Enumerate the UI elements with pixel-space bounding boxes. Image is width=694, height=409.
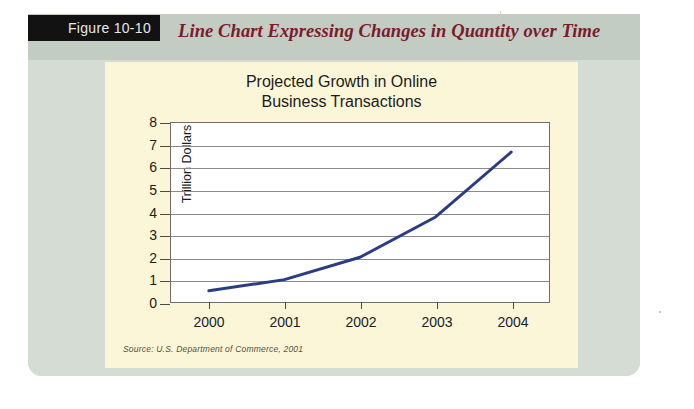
chart-title: Projected Growth in Online Business Tran… [105, 72, 578, 112]
y-axis-tick [160, 281, 170, 282]
series-polyline [209, 152, 511, 291]
y-axis-tick-label: 4 [135, 206, 157, 220]
x-axis-tick-label: 2002 [331, 314, 391, 330]
chart-title-line-1: Projected Growth in Online [105, 72, 578, 92]
source-note: Source: U.S. Department of Commerce, 200… [123, 344, 303, 354]
y-axis-tick [160, 304, 170, 305]
y-axis-tick [160, 214, 170, 215]
y-axis-tick [160, 259, 170, 260]
plot-area: Trillion Dollars 01234567820002001200220… [170, 122, 550, 303]
x-axis-tick-label: 2000 [179, 314, 239, 330]
x-axis-tick [285, 302, 286, 309]
line-series [171, 123, 549, 302]
chart-card: Projected Growth in Online Business Tran… [105, 62, 578, 368]
x-axis-tick [437, 302, 438, 309]
y-axis-tick-label: 3 [135, 228, 157, 242]
x-axis-tick-label: 2004 [483, 314, 543, 330]
y-axis-tick [160, 146, 170, 147]
figure-number-tab: Figure 10-10 [28, 15, 160, 41]
x-axis-tick-label: 2001 [255, 314, 315, 330]
y-axis-tick-label: 8 [135, 115, 157, 129]
y-axis-tick-label: 7 [135, 138, 157, 152]
y-axis-tick [160, 123, 170, 124]
y-axis-tick-label: 0 [135, 296, 157, 310]
scan-artifact-speck [659, 311, 661, 313]
x-axis-tick [361, 302, 362, 309]
y-axis-tick [160, 191, 170, 192]
y-axis-tick-label: 6 [135, 160, 157, 174]
x-axis-tick-label: 2003 [407, 314, 467, 330]
figure-caption: Line Chart Expressing Changes in Quantit… [178, 18, 618, 44]
chart-title-line-2: Business Transactions [105, 92, 578, 112]
x-axis-tick [513, 302, 514, 309]
y-axis-tick [160, 168, 170, 169]
y-axis-tick-label: 1 [135, 273, 157, 287]
y-axis-tick [160, 236, 170, 237]
figure-number-label: Figure 10-10 [68, 20, 151, 36]
y-axis-tick-label: 2 [135, 251, 157, 265]
x-axis-tick [209, 302, 210, 309]
y-axis-tick-label: 5 [135, 183, 157, 197]
